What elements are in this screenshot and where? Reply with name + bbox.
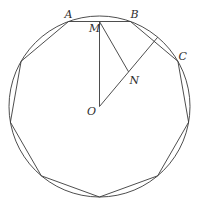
segment-MN xyxy=(100,22,129,72)
label-O: O xyxy=(87,105,96,118)
nonagon-circle-diagram: ABCMNO xyxy=(0,0,197,204)
label-M: M xyxy=(88,22,101,35)
segment-O-arcmidBC xyxy=(100,37,158,106)
label-C: C xyxy=(179,50,188,63)
diagram-canvas: ABCMNO xyxy=(0,0,197,204)
label-N: N xyxy=(129,74,140,87)
label-B: B xyxy=(130,8,139,21)
label-A: A xyxy=(64,8,73,21)
